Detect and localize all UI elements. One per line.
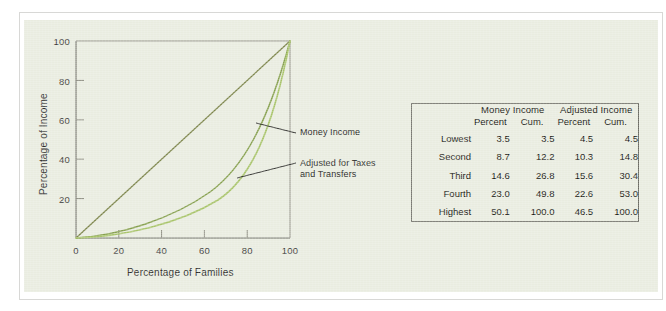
cell-second-adjusted-percent: 10.3 [554,149,593,167]
cell-third-adjusted-percent: 15.6 [554,167,593,185]
cell-second-money-cum: 12.2 [510,149,555,167]
cell-fourth-money-percent: 23.0 [471,185,510,203]
group-header-adjusted-income: Adjusted Income [554,104,638,116]
x-tick-marks [119,230,247,238]
income-distribution-table: Money Income Adjusted Income Percent Cum… [411,103,639,222]
callout-money-income: Money Income [300,127,360,138]
sub-header-adjusted-percent: Percent [554,116,593,128]
cell-highest-money-percent: 50.1 [471,203,510,221]
row-label-third: Third [412,167,471,185]
chart-panel: 100 80 60 40 20 0 20 40 60 80 100 Percen… [24,20,658,292]
y-tick-marks [76,80,84,198]
cell-lowest-adjusted-cum: 4.5 [593,130,638,148]
figure-root: 100 80 60 40 20 0 20 40 60 80 100 Percen… [0,0,666,311]
y-axis-title: Percentage of Income [38,93,49,195]
table-sub-header-row: Percent Cum. Percent Cum. [412,116,638,128]
table-row: Lowest 3.5 3.5 4.5 4.5 [412,130,638,148]
table-sub-corner-cell [412,116,471,128]
x-tick-label-40: 40 [148,245,176,256]
x-axis-title: Percentage of Families [127,267,234,278]
x-tick-label-100: 100 [276,245,304,256]
cell-highest-adjusted-percent: 46.5 [554,203,593,221]
cell-third-money-cum: 26.8 [510,167,555,185]
sub-header-adjusted-cum: Cum. [593,116,638,128]
x-tick-label-60: 60 [190,245,218,256]
cell-fourth-money-cum: 49.8 [510,185,555,203]
cell-fourth-adjusted-percent: 22.6 [554,185,593,203]
table-row: Second 8.7 12.2 10.3 14.8 [412,149,638,167]
row-label-highest: Highest [412,203,471,221]
table-row: Highest 50.1 100.0 46.5 100.0 [412,203,638,221]
row-label-fourth: Fourth [412,185,471,203]
x-tick-label-0: 0 [62,245,90,256]
cell-highest-money-cum: 100.0 [510,203,555,221]
cell-lowest-money-percent: 3.5 [471,130,510,148]
cell-third-money-percent: 14.6 [471,167,510,185]
cell-lowest-adjusted-percent: 4.5 [554,130,593,148]
y-tick-label-20: 20 [42,194,70,205]
sub-header-money-cum: Cum. [510,116,555,128]
y-tick-label-100: 100 [42,36,70,47]
group-header-money-income: Money Income [471,104,554,116]
table-group-header-row: Money Income Adjusted Income [412,104,638,116]
callout-adjusted-income-line1: Adjusted for Taxes [300,158,376,168]
cell-third-adjusted-cum: 30.4 [593,167,638,185]
cell-second-adjusted-cum: 14.8 [593,149,638,167]
table-row: Fourth 23.0 49.8 22.6 53.0 [412,185,638,203]
cell-highest-adjusted-cum: 100.0 [593,203,638,221]
sub-header-money-percent: Percent [471,116,510,128]
cell-second-money-percent: 8.7 [471,149,510,167]
cell-lowest-money-cum: 3.5 [510,130,555,148]
callout-adjusted-income: Adjusted for Taxes and Transfers [300,158,376,179]
table-row: Third 14.6 26.8 15.6 30.4 [412,167,638,185]
x-tick-label-20: 20 [105,245,133,256]
row-label-lowest: Lowest [412,130,471,148]
callout-adjusted-income-line2: and Transfers [300,169,356,179]
y-tick-label-80: 80 [42,76,70,87]
x-tick-label-80: 80 [233,245,261,256]
cell-fourth-adjusted-cum: 53.0 [593,185,638,203]
data-table: Money Income Adjusted Income Percent Cum… [412,104,638,221]
row-label-second: Second [412,149,471,167]
table-corner-cell [412,104,471,116]
